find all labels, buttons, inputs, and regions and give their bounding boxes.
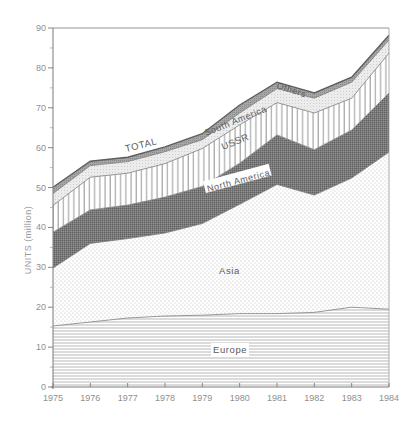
- x-tick-label: 1979: [192, 393, 212, 403]
- label-europe: Europe: [213, 344, 247, 355]
- x-tick-label: 1980: [230, 393, 250, 403]
- y-tick-label: 90: [36, 23, 46, 33]
- x-tick-label: 1983: [342, 393, 362, 403]
- x-tick-label: 1978: [155, 393, 175, 403]
- y-axis-title: UNITS (million): [23, 206, 33, 275]
- y-tick-label: 50: [36, 183, 46, 193]
- y-tick-label: 10: [36, 342, 46, 352]
- stacked-area-chart: 0102030405060708090 19751976197719781979…: [0, 0, 419, 423]
- y-tick-label: 80: [36, 63, 46, 73]
- y-tick-label: 40: [36, 222, 46, 232]
- x-tick-label: 1984: [379, 393, 399, 403]
- y-tick-label: 60: [36, 143, 46, 153]
- x-tick-label: 1976: [80, 393, 100, 403]
- y-tick-label: 30: [36, 262, 46, 272]
- x-tick-label: 1981: [267, 393, 287, 403]
- y-tick-label: 70: [36, 103, 46, 113]
- x-tick-label: 1977: [118, 393, 138, 403]
- y-tick-label: 0: [41, 382, 46, 392]
- x-tick-label: 1975: [43, 393, 63, 403]
- y-tick-label: 20: [36, 302, 46, 312]
- y-axis: 0102030405060708090: [36, 23, 53, 392]
- label-asia: Asia: [219, 265, 240, 276]
- x-tick-label: 1982: [304, 393, 324, 403]
